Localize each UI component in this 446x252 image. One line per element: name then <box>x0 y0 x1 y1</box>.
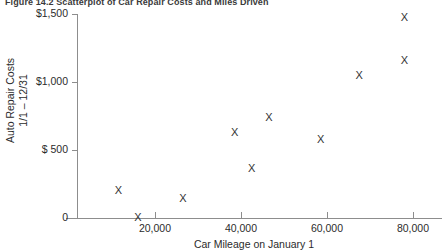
y-axis-line <box>77 14 78 219</box>
x-axis-tick-label: 40,000 <box>201 222 281 234</box>
data-point-marker: X <box>401 55 408 66</box>
x-axis-tick-label: 80,000 <box>373 222 446 234</box>
y-axis-tick-label: $1,500 <box>0 7 68 19</box>
data-point-marker: X <box>115 185 122 196</box>
x-axis-tick <box>327 212 328 219</box>
y-axis-tick <box>72 82 78 83</box>
data-point-marker: X <box>356 70 363 81</box>
x-axis-line <box>66 218 442 219</box>
y-axis-tick <box>72 14 78 15</box>
y-axis-title-line2: 1/1 – 12/31 <box>16 41 29 161</box>
y-axis-tick <box>72 150 78 151</box>
figure-container: Figure 14.2 Scatterplot of Car Repair Co… <box>0 0 446 252</box>
y-axis-title-line1: Auto Repair Costs <box>4 58 16 143</box>
x-axis-tick-label: 20,000 <box>115 222 195 234</box>
x-axis-tick <box>241 212 242 219</box>
x-axis-tick-label: 60,000 <box>287 222 367 234</box>
data-point-marker: X <box>179 192 186 203</box>
x-axis-tick <box>155 212 156 219</box>
y-axis-tick-label: 0 <box>0 211 68 223</box>
data-point-marker: X <box>265 112 272 123</box>
data-point-marker: X <box>401 11 408 22</box>
data-point-marker: X <box>248 162 255 173</box>
y-axis-title: Auto Repair Costs 1/1 – 12/31 <box>4 41 29 161</box>
scatter-plot: 0$ 500$1,000$1,500 20,00040,00060,00080,… <box>0 0 446 252</box>
x-axis-title: Car Mileage on January 1 <box>66 238 442 250</box>
data-point-marker: X <box>134 211 141 222</box>
x-axis-tick <box>413 212 414 219</box>
data-point-marker: X <box>231 127 238 138</box>
data-point-marker: X <box>317 134 324 145</box>
